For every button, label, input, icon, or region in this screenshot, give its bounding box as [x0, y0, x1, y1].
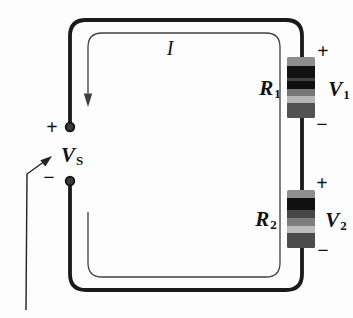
callout-line: [26, 161, 45, 310]
r1-symbol: R: [259, 76, 273, 100]
current-label: I: [167, 38, 174, 58]
v1-subscript: 1: [343, 87, 350, 102]
circuit-figure: I + VS − + R1 V1 − + R2 V2 −: [0, 0, 353, 318]
current-arrowhead: [84, 94, 92, 108]
resistor-r1-body: [287, 57, 315, 118]
v2-minus-sign: −: [317, 240, 328, 260]
v1-minus-sign: −: [316, 114, 327, 134]
resistor-r1-label: R1: [259, 78, 281, 99]
v2-plus-sign: +: [316, 173, 327, 193]
r2-symbol: R: [255, 207, 269, 231]
v1-label: V1: [328, 79, 350, 100]
terminal-dot-negative: [66, 177, 75, 186]
r1-subscript: 1: [274, 86, 281, 101]
circuit-canvas: [0, 0, 353, 318]
callout-arrowhead: [40, 156, 52, 167]
source-minus-sign: −: [43, 167, 54, 187]
resistor-r2-body: [287, 190, 315, 248]
v2-label: V2: [325, 210, 347, 231]
source-voltage-label: VS: [61, 145, 83, 166]
v2-symbol: V: [325, 208, 339, 232]
source-plus-sign: +: [46, 117, 57, 137]
r2-subscript: 2: [270, 217, 277, 232]
current-loop: [88, 33, 280, 277]
resistor-r2-label: R2: [255, 209, 277, 230]
v2-subscript: 2: [340, 218, 347, 233]
source-voltage-symbol: V: [61, 143, 75, 167]
terminal-dot-positive: [66, 123, 75, 132]
v1-plus-sign: +: [317, 41, 328, 61]
v1-symbol: V: [328, 77, 342, 101]
outer-wire: [70, 20, 302, 290]
source-voltage-subscript: S: [76, 153, 83, 168]
